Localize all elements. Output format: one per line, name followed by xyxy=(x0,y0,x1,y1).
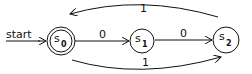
state-s0-name: s xyxy=(54,32,60,45)
state-s2[interactable]: s 2 xyxy=(213,27,239,53)
transition-s2-s0: 1 xyxy=(70,2,218,17)
transition-s0-s1: 0 xyxy=(75,28,129,41)
state-s2-subscript: 2 xyxy=(226,39,232,48)
transition-s1-s2-label: 0 xyxy=(180,27,187,40)
state-s1-name: s xyxy=(135,32,141,45)
transition-s2-s0-label: 1 xyxy=(140,2,147,15)
transition-s1-s2: 0 xyxy=(155,27,212,40)
state-s1[interactable]: s 1 xyxy=(130,29,154,53)
state-s2-name: s xyxy=(219,30,225,43)
start-label: start xyxy=(6,28,32,41)
state-s0-subscript: 0 xyxy=(61,40,67,49)
transition-s0-s2-label: 1 xyxy=(142,56,149,69)
start-indicator: start xyxy=(6,28,46,41)
state-s0[interactable]: s 0 xyxy=(47,27,75,55)
state-s1-subscript: 1 xyxy=(142,40,148,49)
transition-s0-s2: 1 xyxy=(72,56,221,69)
transition-s0-s1-label: 0 xyxy=(99,28,106,41)
automaton-diagram: start s 0 s 1 s 2 0 0 1 1 xyxy=(0,0,252,74)
